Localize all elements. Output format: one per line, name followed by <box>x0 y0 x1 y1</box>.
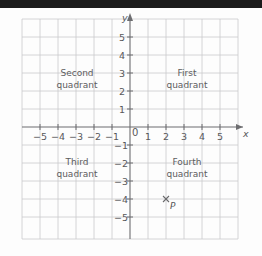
quadrant-label-fourth-line2: quadrant <box>152 168 222 180</box>
y-tick-label-4: 4 <box>119 50 125 61</box>
x-axis-arrow-icon <box>236 124 243 130</box>
x-tick-label-neg4: −4 <box>51 131 65 142</box>
y-tick-label-neg2: −2 <box>114 158 128 169</box>
quadrant-label-second: Second quadrant <box>42 67 112 91</box>
y-tick-label-neg1: −1 <box>114 140 128 151</box>
quadrant-label-second-line2: quadrant <box>42 79 112 91</box>
quadrant-label-third-line2: quadrant <box>42 168 112 180</box>
y-tick-label-neg4: −4 <box>114 194 128 205</box>
x-tick-label-neg3: −3 <box>69 131 83 142</box>
x-tick-label-neg2: −2 <box>87 131 101 142</box>
y-tick-label-2: 2 <box>119 86 125 97</box>
x-tick-label-5: 5 <box>217 131 223 142</box>
coordinate-plane-svg <box>0 0 262 256</box>
x-tick-label-2: 2 <box>163 131 169 142</box>
y-tick-label-neg5: −5 <box>114 212 128 223</box>
y-tick-label-3: 3 <box>119 68 125 79</box>
quadrant-label-third-line1: Third <box>42 156 112 168</box>
quadrant-label-first-line1: First <box>152 67 222 79</box>
origin-label: 0 <box>132 127 138 138</box>
quadrant-label-fourth: Fourth quadrant <box>152 156 222 180</box>
y-tick-label-1: 1 <box>119 104 125 115</box>
coordinate-plane-figure: −5 −4 −3 −2 −1 0 1 2 3 4 5 1 2 3 4 5 −1 … <box>0 0 262 256</box>
point-p-label: P <box>170 201 175 211</box>
quadrant-label-first: First quadrant <box>152 67 222 91</box>
x-tick-label-neg5: −5 <box>33 131 47 142</box>
y-tick-label-5: 5 <box>119 32 125 43</box>
x-tick-label-4: 4 <box>199 131 205 142</box>
x-axis-label: x <box>243 128 249 139</box>
quadrant-label-first-line2: quadrant <box>152 79 222 91</box>
x-tick-label-3: 3 <box>181 131 187 142</box>
y-tick-label-neg3: −3 <box>114 176 128 187</box>
quadrant-label-fourth-line1: Fourth <box>152 156 222 168</box>
quadrant-label-second-line1: Second <box>42 67 112 79</box>
x-tick-label-1: 1 <box>145 131 151 142</box>
quadrant-label-third: Third quadrant <box>42 156 112 180</box>
y-axis-label: y <box>122 12 128 23</box>
